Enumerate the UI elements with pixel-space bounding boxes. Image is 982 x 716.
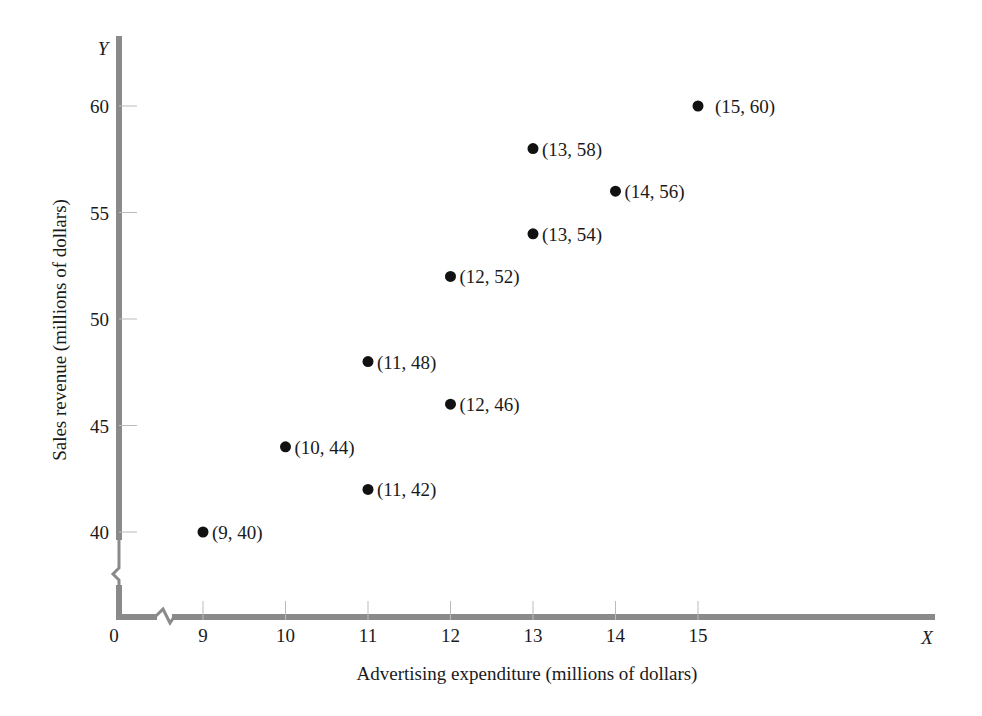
data-point-label: (11, 48) [377, 352, 436, 374]
data-point [198, 527, 209, 538]
data-point-label: (12, 46) [460, 394, 520, 416]
data-point [445, 271, 456, 282]
chart-canvas: 404550556091011121314150YXAdvertising ex… [0, 0, 982, 716]
origin-label: 0 [109, 625, 119, 646]
data-point-label: (12, 52) [460, 266, 520, 288]
data-point [445, 399, 456, 410]
data-point [528, 143, 539, 154]
x-tick-label: 9 [198, 625, 208, 646]
x-tick-label: 12 [441, 625, 460, 646]
x-axis-break [155, 609, 174, 623]
data-point-label: (13, 58) [542, 139, 602, 161]
x-tick-label: 15 [689, 625, 708, 646]
x-axis-title: Advertising expenditure (millions of dol… [357, 663, 698, 685]
scatter-chart: 404550556091011121314150YXAdvertising ex… [0, 0, 982, 716]
data-point-label: (9, 40) [212, 522, 263, 544]
y-axis-letter: Y [98, 38, 111, 59]
data-point-label: (13, 54) [542, 224, 602, 246]
y-tick-label: 40 [90, 522, 109, 543]
data-point-label: (15, 60) [715, 96, 775, 118]
data-point-label: (14, 56) [625, 181, 685, 203]
data-point [363, 356, 374, 367]
x-tick-label: 14 [606, 625, 626, 646]
x-tick-label: 13 [524, 625, 543, 646]
data-point [528, 228, 539, 239]
data-point [693, 101, 704, 112]
y-tick-label: 45 [90, 416, 109, 437]
y-tick-label: 60 [90, 96, 109, 117]
y-tick-label: 55 [90, 203, 109, 224]
data-point-label: (11, 42) [377, 479, 436, 501]
x-tick-label: 10 [276, 625, 295, 646]
data-point [280, 441, 291, 452]
y-tick-label: 50 [90, 309, 109, 330]
x-tick-label: 11 [359, 625, 377, 646]
y-axis-break [113, 540, 119, 588]
data-point [610, 186, 621, 197]
data-point [363, 484, 374, 495]
y-axis-title: Sales revenue (millions of dollars) [49, 199, 71, 461]
data-point-label: (10, 44) [295, 437, 355, 459]
x-axis-letter: X [920, 627, 934, 648]
